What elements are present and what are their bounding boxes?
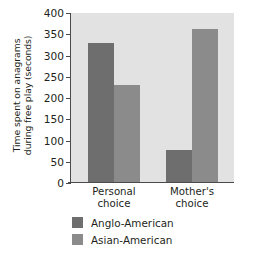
plot-inner bbox=[71, 13, 234, 183]
x-axis-line bbox=[68, 182, 234, 183]
y-axis-title: Time spent on anagrams during free play … bbox=[0, 0, 46, 190]
x-axis-label-mothers-choice-line2: choice bbox=[154, 198, 230, 210]
y-axis-tick-label: 250 bbox=[44, 71, 64, 83]
legend: Anglo-American Asian-American bbox=[72, 214, 232, 248]
bar-asian-american-personal-choice bbox=[114, 85, 140, 183]
legend-label-anglo-american: Anglo-American bbox=[91, 217, 174, 229]
y-axis-tick-label: 0 bbox=[57, 177, 64, 189]
y-axis-tick-mark bbox=[66, 77, 71, 78]
legend-item-anglo-american: Anglo-American bbox=[72, 214, 232, 231]
y-axis-tick-label: 200 bbox=[44, 92, 64, 104]
x-axis-label-personal-choice-line2: choice bbox=[76, 198, 152, 210]
y-axis-tick-mark bbox=[66, 56, 71, 57]
bar-asian-american-mother-s-choice bbox=[192, 29, 218, 183]
y-axis-tick-mark bbox=[66, 34, 71, 35]
x-axis-label-personal-choice: Personal choice bbox=[76, 186, 152, 210]
y-axis-tick-label: 400 bbox=[44, 7, 64, 19]
y-axis-title-line2: during free play (seconds) bbox=[23, 35, 34, 155]
y-axis-tick-label: 50 bbox=[51, 156, 64, 168]
y-axis-tick-mark bbox=[66, 98, 71, 99]
legend-swatch-asian-american bbox=[72, 234, 83, 245]
legend-label-asian-american: Asian-American bbox=[91, 234, 172, 246]
bar-anglo-american-personal-choice bbox=[88, 43, 114, 183]
legend-swatch-anglo-american bbox=[72, 217, 83, 228]
y-axis-tick-label: 300 bbox=[44, 50, 64, 62]
y-axis-title-line1: Time spent on anagrams bbox=[12, 38, 23, 152]
y-axis-tick-mark bbox=[66, 183, 71, 184]
y-axis-tick-mark bbox=[66, 141, 71, 142]
y-axis-tick-label: 100 bbox=[44, 135, 64, 147]
legend-item-asian-american: Asian-American bbox=[72, 231, 232, 248]
x-axis-label-personal-choice-line1: Personal bbox=[92, 186, 135, 197]
x-axis-label-mothers-choice-line1: Mother's bbox=[170, 186, 214, 197]
y-axis-tick-label: 150 bbox=[44, 113, 64, 125]
bar-anglo-american-mother-s-choice bbox=[166, 150, 192, 183]
bar-chart-figure: Time spent on anagrams during free play … bbox=[0, 0, 256, 258]
y-axis-tick-label: 350 bbox=[44, 28, 64, 40]
y-axis-tick-mark bbox=[66, 162, 71, 163]
x-axis-label-mothers-choice: Mother's choice bbox=[154, 186, 230, 210]
y-axis-tick-mark bbox=[66, 119, 71, 120]
plot-area: 400350300250200150100500 bbox=[70, 13, 234, 183]
y-axis-tick-mark bbox=[66, 13, 71, 14]
